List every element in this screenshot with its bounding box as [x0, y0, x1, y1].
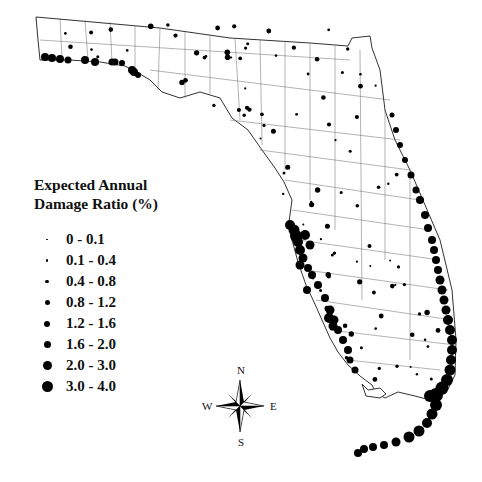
damage-point: [346, 47, 349, 50]
damage-point: [430, 246, 438, 254]
damage-point: [203, 56, 207, 60]
damage-point: [325, 224, 330, 229]
damage-point: [442, 306, 451, 315]
damage-point: [89, 31, 93, 35]
damage-point: [166, 23, 170, 27]
damage-point: [432, 256, 440, 264]
damage-point: [446, 355, 456, 365]
legend-symbol: [34, 381, 60, 392]
damage-point: [244, 47, 247, 50]
damage-point: [135, 72, 141, 78]
damage-point: [283, 171, 286, 174]
damage-point: [357, 279, 362, 284]
legend: Expected Annual Damage Ratio (%) 0 - 0.1…: [34, 175, 204, 397]
damage-point: [343, 323, 348, 328]
damage-point: [443, 315, 453, 325]
damage-point: [215, 26, 220, 31]
damage-point: [308, 271, 316, 279]
damage-point: [436, 328, 441, 333]
damage-point: [238, 56, 242, 60]
damage-point: [422, 418, 432, 428]
damage-point: [90, 48, 93, 51]
damage-point: [243, 114, 246, 117]
damage-point: [237, 108, 241, 112]
legend-item: 1.6 - 2.0: [34, 334, 204, 355]
damage-point: [303, 286, 311, 294]
damage-point: [447, 345, 457, 355]
legend-symbol: [34, 259, 60, 262]
damage-point: [416, 373, 418, 375]
damage-point: [148, 24, 154, 30]
damage-point: [402, 157, 408, 163]
damage-point: [329, 322, 338, 331]
legend-items: 0 - 0.10.1 - 0.40.4 - 0.80.8 - 1.21.2 - …: [34, 229, 204, 397]
damage-point: [212, 104, 215, 107]
damage-point: [81, 56, 89, 64]
damage-point: [395, 365, 398, 368]
damage-point: [424, 224, 432, 232]
damage-point: [355, 115, 359, 119]
damage-point: [375, 85, 377, 87]
legend-item: 2.0 - 3.0: [34, 355, 204, 376]
damage-point: [245, 106, 249, 110]
damage-point: [359, 73, 362, 76]
damage-point: [372, 291, 376, 295]
damage-point: [48, 54, 56, 62]
damage-point: [416, 196, 424, 204]
damage-point: [424, 310, 429, 315]
damage-point: [368, 244, 372, 248]
damage-point: [65, 57, 72, 64]
damage-point: [319, 289, 322, 292]
compass-west-label: W: [202, 400, 212, 412]
damage-point: [300, 230, 310, 240]
legend-symbol: [34, 361, 60, 370]
damage-point: [358, 84, 363, 89]
damage-point: [378, 367, 381, 370]
damage-point: [56, 55, 64, 63]
damage-point: [447, 335, 457, 345]
damage-point: [395, 173, 399, 177]
dot-icon: [45, 300, 50, 305]
damage-point: [109, 27, 114, 32]
damage-point: [377, 186, 381, 190]
damage-point: [321, 95, 326, 100]
damage-point: [325, 306, 330, 311]
damage-point: [260, 112, 264, 116]
damage-point: [445, 325, 455, 335]
legend-item: 0.1 - 0.4: [34, 250, 204, 271]
damage-point: [436, 276, 445, 285]
damage-point: [285, 165, 290, 170]
damage-point: [320, 238, 322, 240]
legend-title-line1: Expected Annual: [34, 175, 204, 194]
damage-point: [387, 183, 389, 185]
damage-point: [295, 245, 305, 255]
damage-point: [352, 367, 359, 374]
damage-point: [390, 284, 395, 289]
damage-point: [324, 313, 334, 323]
damage-point: [369, 265, 371, 267]
dot-icon: [44, 341, 51, 348]
damage-point: [173, 34, 177, 38]
damage-point: [296, 261, 305, 270]
legend-label: 0.8 - 1.2: [66, 294, 116, 311]
damage-point: [380, 441, 388, 449]
damage-point: [408, 172, 415, 179]
damage-point: [321, 294, 329, 302]
damage-point: [434, 266, 442, 274]
damage-point: [301, 260, 304, 263]
damage-point: [194, 50, 199, 55]
damage-point: [356, 261, 358, 263]
damage-point: [282, 193, 284, 195]
damage-point: [404, 432, 415, 443]
damage-point: [445, 365, 456, 376]
damage-point: [430, 378, 433, 381]
dot-icon: [45, 280, 49, 284]
damage-point: [225, 49, 231, 55]
damage-point: [232, 24, 236, 28]
damage-point: [119, 60, 125, 66]
legend-label: 0 - 0.1: [66, 231, 105, 248]
damage-point: [302, 224, 304, 226]
damage-point: [397, 142, 403, 148]
damage-point: [339, 336, 347, 344]
dot-icon: [46, 259, 49, 262]
